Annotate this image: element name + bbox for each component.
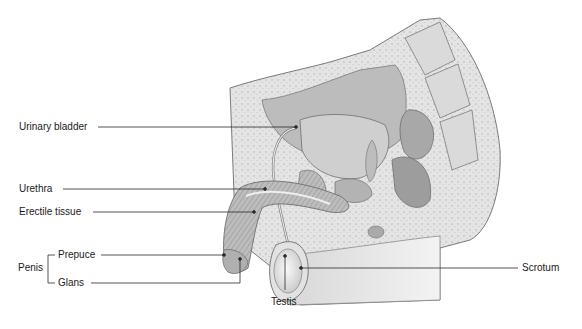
label-penis: Penis bbox=[18, 262, 43, 274]
label-prepuce: Prepuce bbox=[58, 249, 95, 261]
label-testis: Testis bbox=[271, 296, 297, 308]
label-urinary-bladder: Urinary bladder bbox=[19, 121, 87, 133]
label-scrotum: Scrotum bbox=[522, 262, 559, 274]
anatomy-diagram: Urinary bladder Urethra Erectile tissue … bbox=[0, 0, 582, 329]
label-erectile-tissue: Erectile tissue bbox=[19, 206, 81, 218]
anatomy-illustration bbox=[0, 0, 582, 329]
label-glans: Glans bbox=[58, 277, 84, 289]
label-urethra: Urethra bbox=[19, 183, 52, 195]
